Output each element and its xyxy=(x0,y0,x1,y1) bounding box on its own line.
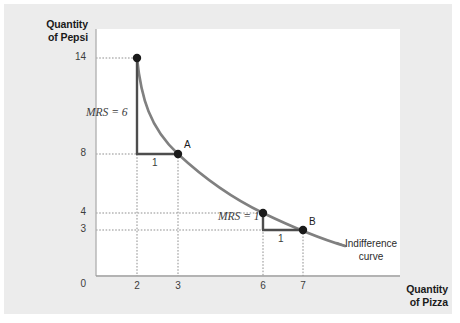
x-tick-label-2: 2 xyxy=(124,280,150,291)
horizontal-guide-lines xyxy=(96,58,303,230)
point-2-14 xyxy=(133,54,141,62)
point-a-label: A xyxy=(184,139,191,150)
y-tick-label-8: 8 xyxy=(60,147,86,158)
indifference-curve-figure: Quantity of Pepsi Quantity of Pizza 14 8… xyxy=(0,0,460,323)
step-run-b-label: 1 xyxy=(278,233,284,244)
y-axis-title: Quantity of Pepsi xyxy=(14,18,88,43)
point-b-label: B xyxy=(309,216,316,227)
x-tick-label-7: 7 xyxy=(290,280,316,291)
curve-caption-line1: Indifference xyxy=(345,237,397,250)
x-axis-title: Quantity of Pizza xyxy=(372,283,448,308)
x-axis-title-line2: of Pizza xyxy=(372,296,448,309)
point-6-4 xyxy=(259,209,267,217)
x-tick-label-3: 3 xyxy=(165,280,191,291)
y-axis-title-line1: Quantity xyxy=(14,18,88,31)
y-tick-label-0: 0 xyxy=(60,278,86,289)
chart-graphics xyxy=(0,0,460,323)
curve-callout-leader xyxy=(337,243,345,246)
point-b xyxy=(299,226,307,234)
indifference-curve-caption: Indifference curve xyxy=(345,237,397,263)
point-a xyxy=(174,150,182,158)
x-tick-label-6: 6 xyxy=(250,280,276,291)
y-tick-label-3: 3 xyxy=(60,223,86,234)
step-run-a-label: 1 xyxy=(152,157,158,168)
curve-caption-line2: curve xyxy=(345,250,397,263)
y-axis-title-line2: of Pepsi xyxy=(14,31,88,44)
mrs-6-annotation: MRS = 6 xyxy=(86,106,128,118)
x-axis-title-line1: Quantity xyxy=(372,283,448,296)
y-tick-label-4: 4 xyxy=(60,206,86,217)
y-tick-label-14: 14 xyxy=(60,51,86,62)
data-points xyxy=(133,54,307,234)
mrs-1-annotation: MRS = 1 xyxy=(218,210,260,222)
mrs-6-step-path xyxy=(136,58,178,154)
